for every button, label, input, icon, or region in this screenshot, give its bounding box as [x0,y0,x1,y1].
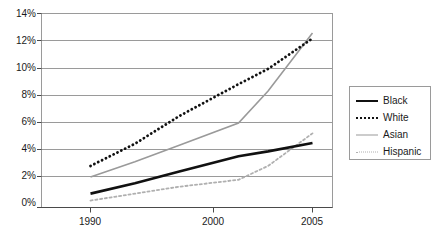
legend: Black White Asian Hispanic [349,86,431,160]
legend-label-black: Black [383,96,407,106]
legend-item-hispanic[interactable]: Hispanic [356,145,421,159]
legend-label-asian: Asian [383,130,408,140]
legend-swatch-hispanic-icon [356,147,378,157]
legend-label-white: White [383,113,409,123]
legend-item-asian[interactable]: Asian [356,128,408,142]
legend-item-white[interactable]: White [356,111,409,125]
legend-label-hispanic: Hispanic [383,147,421,157]
legend-swatch-white-icon [356,113,378,123]
x-axis [37,208,333,213]
legend-swatch-black-icon [356,96,378,106]
legend-item-black[interactable]: Black [356,94,407,108]
line-chart: 14% 12% 10% 8% 6% 4% 2% 0% 1990 2000 200… [0,0,439,247]
y-axis-ticks [37,14,42,208]
legend-swatch-asian-icon [356,130,378,140]
